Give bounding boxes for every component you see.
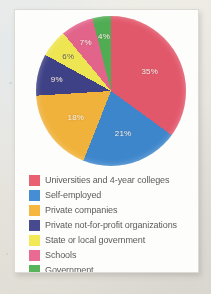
legend-color-swatch bbox=[29, 250, 40, 261]
legend-item[interactable]: Government bbox=[29, 263, 195, 273]
legend-item[interactable]: Schools bbox=[29, 248, 195, 262]
legend-color-swatch bbox=[29, 235, 40, 246]
legend-item[interactable]: Private not-for-profit organizations bbox=[29, 218, 195, 232]
chart-card: 35%21%18%9%6%7%4% Universities and 4-yea… bbox=[14, 9, 199, 273]
legend-item-label: Schools bbox=[45, 250, 76, 261]
legend-color-swatch bbox=[29, 190, 40, 201]
legend-color-swatch bbox=[29, 175, 40, 186]
scan-speck bbox=[6, 253, 8, 255]
legend-color-swatch bbox=[29, 205, 40, 216]
legend: Universities and 4-year collegesSelf-emp… bbox=[29, 173, 195, 273]
scan-speck bbox=[9, 82, 12, 84]
pie-graphic bbox=[36, 16, 186, 166]
legend-item-label: Private companies bbox=[45, 205, 117, 216]
legend-item[interactable]: Self-employed bbox=[29, 188, 195, 202]
pie-chart: 35%21%18%9%6%7%4% bbox=[15, 14, 198, 172]
legend-item-label: State or local government bbox=[45, 235, 145, 246]
legend-color-swatch bbox=[29, 265, 40, 274]
legend-color-swatch bbox=[29, 220, 40, 231]
legend-item[interactable]: Private companies bbox=[29, 203, 195, 217]
legend-item-label: Universities and 4-year colleges bbox=[45, 175, 169, 186]
legend-item-label: Government bbox=[45, 265, 94, 274]
legend-item-label: Private not-for-profit organizations bbox=[45, 220, 177, 231]
legend-item-label: Self-employed bbox=[45, 190, 101, 201]
legend-item[interactable]: Universities and 4-year colleges bbox=[29, 173, 195, 187]
legend-item[interactable]: State or local government bbox=[29, 233, 195, 247]
